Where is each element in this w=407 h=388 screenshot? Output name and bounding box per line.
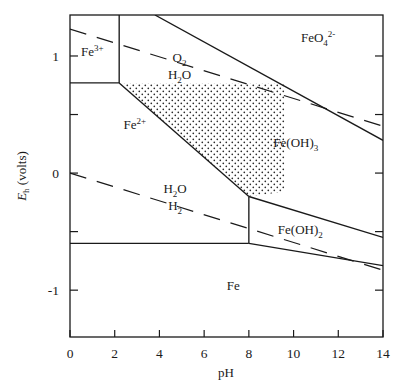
x-tick-label-6: 6	[201, 346, 208, 361]
x-tick-label-0: 0	[67, 346, 74, 361]
pourbaix-diagram-svg: 02468101214 10-1 pH Eh (volts) Fe3+Fe2+F…	[0, 0, 407, 388]
pourbaix-diagram-figure: 02468101214 10-1 pH Eh (volts) Fe3+Fe2+F…	[0, 0, 407, 388]
x-tick-label-2: 2	[111, 346, 118, 361]
x-tick-label-8: 8	[245, 346, 252, 361]
x-tick-label-14: 14	[376, 346, 390, 361]
y-tick-label-1: 1	[52, 49, 59, 64]
field-label-Fe: Fe	[227, 278, 240, 293]
y-tick-label--1: -1	[48, 283, 59, 298]
x-tick-label-4: 4	[156, 346, 163, 361]
figure-background	[0, 0, 407, 388]
svg-text:Fe: Fe	[227, 278, 240, 293]
x-tick-label-10: 10	[287, 346, 301, 361]
y-tick-label-0: 0	[52, 166, 59, 181]
y-axis-title: Eh (volts)	[14, 151, 31, 202]
svg-text:Eh (volts): Eh (volts)	[14, 151, 31, 202]
x-tick-label-12: 12	[332, 346, 346, 361]
x-axis-title: pH	[218, 365, 234, 380]
